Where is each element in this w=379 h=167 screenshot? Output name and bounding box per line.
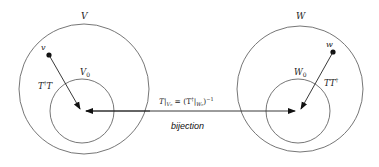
label-t-tdagger: TT† bbox=[324, 77, 339, 88]
bijection-caption: bijection bbox=[171, 121, 204, 131]
label-tdagger-t: T†T bbox=[38, 80, 53, 91]
space-v: V v V0 T†T bbox=[19, 11, 149, 154]
bijection: T|V₀ = (T†|W₀)−1 bijection bbox=[86, 96, 295, 131]
label-w0: W0 bbox=[294, 67, 307, 78]
space-w: W w W0 TT† bbox=[237, 11, 363, 152]
label-point-w: w bbox=[326, 40, 333, 49]
restriction-formula: T|V₀ = (T†|W₀)−1 bbox=[159, 96, 214, 107]
arrow-tdagger-t bbox=[49, 55, 80, 109]
label-point-v: v bbox=[41, 43, 46, 52]
diagram-canvas: V v V0 T†T W w W0 TT† T|V₀ = (T†|W₀)−1 b… bbox=[0, 0, 379, 167]
outer-circle-w bbox=[237, 26, 363, 152]
label-w-outer: W bbox=[296, 11, 306, 21]
label-v-outer: V bbox=[81, 11, 89, 21]
label-v0: V0 bbox=[80, 67, 90, 78]
